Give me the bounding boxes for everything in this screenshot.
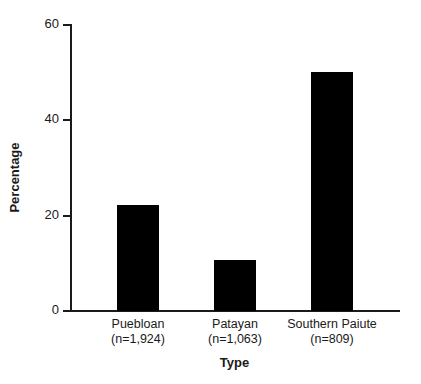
y-axis-line: [70, 24, 72, 312]
bar-southern-paiute: [311, 72, 353, 311]
y-axis-tick-20: [63, 215, 71, 217]
category-count-southern-paiute: (n=809): [252, 332, 412, 347]
x-axis-category-label-southern-paiute: Southern Paiute (n=809): [252, 317, 412, 347]
bar-puebloan: [117, 205, 159, 311]
y-axis-title: Percentage: [7, 108, 22, 248]
category-name-southern-paiute: Southern Paiute: [252, 317, 412, 332]
bar-chart-figure: 60 40 20 0 Puebloan (n=1,924) Patayan (n…: [0, 0, 421, 384]
y-axis-tick-60: [63, 24, 71, 26]
y-axis-ticklabel-60-wrap: 60: [0, 17, 59, 30]
bar-patayan: [214, 260, 256, 311]
y-axis-ticklabel-0-wrap: 0: [0, 303, 59, 316]
x-axis-title: Type: [220, 355, 249, 370]
x-axis-title-container: Type: [0, 355, 421, 370]
y-axis-tick-0: [63, 310, 71, 312]
y-axis-ticklabel-60: 60: [0, 17, 59, 30]
y-axis-tick-40: [63, 119, 71, 121]
y-axis-ticklabel-0: 0: [0, 303, 59, 316]
